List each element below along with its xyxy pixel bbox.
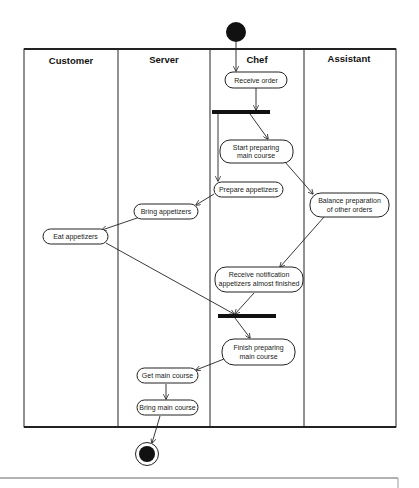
action-finish-preparing-main-course: Finish preparing main course [222,339,295,365]
action-balance-preparation: Balance preparation of other orders [310,193,389,217]
edge-bring-eat-appetizers [102,217,140,230]
activity-diagram: Customer Server Chef Assistant Receive o… [0,0,419,488]
lane-title-assistant: Assistant [328,53,372,64]
edge-start-preparing-balance [285,162,313,194]
action-get-main-course: Get main course [137,368,198,383]
edge-bring-main-course-end [152,416,160,443]
action-label: Get main course [142,372,193,379]
final-node-icon [136,443,159,466]
action-start-preparing-main-course: Start preparing main course [220,140,293,163]
action-label: Prepare appetizers [219,186,279,194]
action-label: main course [239,353,277,360]
edge-join-finish-preparing [235,318,250,338]
action-label: Receive order [234,77,278,84]
lane-title-server: Server [149,54,179,65]
action-label: Finish preparing [233,344,283,352]
action-eat-appetizers: Eat appetizers [43,229,108,244]
lane-title-chef: Chef [246,54,268,65]
action-label: appetizers almost finished [219,280,300,288]
initial-node-icon [226,22,246,42]
edge-fork-start-preparing [250,114,268,139]
action-bring-main-course: Bring main course [137,400,198,415]
action-prepare-appetizers: Prepare appetizers [214,182,283,197]
edge-balance-receive-notification [280,217,324,267]
action-label: Receive notification [229,271,290,278]
action-label: Start preparing [233,144,279,152]
fork-bar [212,110,270,114]
edges [102,42,324,443]
edge-receive-notification-join [235,293,254,314]
edge-prepare-bring-appetizers [196,194,214,205]
action-label: of other orders [327,206,373,213]
action-label: Bring appetizers [141,208,192,216]
action-label: Bring main course [139,404,196,412]
action-bring-appetizers: Bring appetizers [134,204,198,219]
action-receive-order: Receive order [225,72,287,88]
join-bar [218,314,276,318]
action-label: Balance preparation [318,197,381,205]
lane-title-customer: Customer [49,55,94,66]
action-label: main course [237,152,275,159]
action-label: Eat appetizers [53,233,98,241]
action-receive-notification: Receive notification appetizers almost f… [215,267,303,292]
